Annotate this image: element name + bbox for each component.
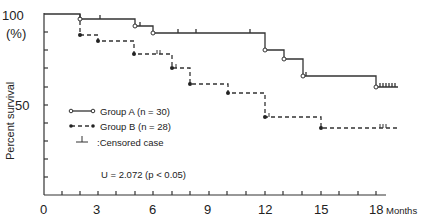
group-a-markers [78, 17, 378, 89]
x-tick-9: 9 [204, 202, 211, 217]
legend-censored: :Censored case [76, 136, 164, 148]
legend-group-b: Group B (n = 28) [69, 121, 171, 132]
legend-group-b-label: Group B (n = 28) [100, 121, 171, 132]
legend-group-a: Group A (n = 30) [69, 106, 170, 117]
y-tick-100: 100 [2, 8, 24, 23]
y-unit-label: (%) [6, 26, 26, 41]
statistic-annotation: U = 2.072 (p < 0.05) [101, 169, 186, 180]
x-tick-3: 3 [93, 202, 100, 217]
x-tick-0: 0 [40, 202, 47, 217]
y-tick-50: 50 [15, 98, 29, 113]
legend-group-a-label: Group A (n = 30) [100, 106, 170, 117]
legend-censored-label: :Censored case [97, 137, 164, 148]
legend: Group A (n = 30) Group B (n = 28) :Censo… [69, 106, 171, 148]
group-b-censor-ticks [157, 50, 386, 128]
x-tick-12: 12 [258, 202, 272, 217]
group-a-curve [44, 14, 398, 87]
y-axis-title: Percent survival [4, 82, 16, 160]
x-tick-18: 18 [369, 202, 383, 217]
x-tick-15: 15 [314, 202, 328, 217]
survival-chart: 100 (%) 50 Percent survival 0 3 6 9 12 1… [0, 0, 427, 221]
axes [44, 13, 386, 195]
x-axis-unit: Months [386, 205, 417, 216]
x-tick-6: 6 [149, 202, 156, 217]
